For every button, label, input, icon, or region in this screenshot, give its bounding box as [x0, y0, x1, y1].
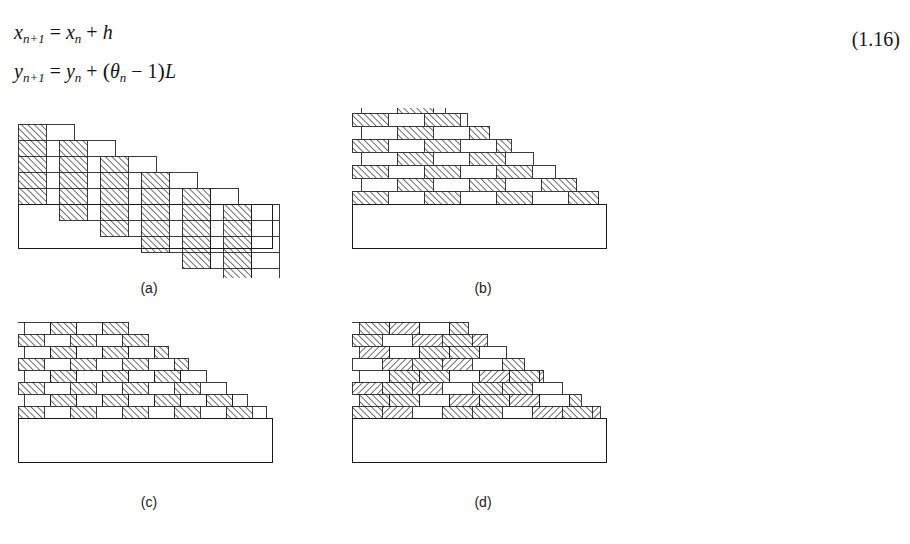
equation2-relation: = [50, 60, 61, 82]
equation-step-term: h [103, 21, 113, 43]
figure-panel-b: (b) [338, 108, 668, 313]
equation-lhs-subscript: n+1 [23, 31, 45, 46]
equation2-rhs-subscript: n [75, 70, 82, 85]
figure-d-drawing [338, 322, 638, 492]
figure-panel-c: (c) [4, 322, 334, 537]
figure-a-drawing [4, 108, 304, 278]
equation-rhs-subscript: n [75, 31, 82, 46]
figure-grid: (a) (b) (c) (d) [0, 100, 910, 544]
equation2-theta: θ [110, 60, 120, 82]
figure-b-drawing [338, 108, 638, 278]
equation-lhs-variable: x [14, 21, 23, 43]
equation-relation: = [50, 21, 61, 43]
equation2-operator: + [86, 60, 97, 82]
equation2-open-paren: ( [103, 58, 110, 83]
equation-rhs-variable: x [66, 21, 75, 43]
equation-line-1: xn+1 = xn + h [14, 22, 113, 45]
figure-a-label: (a) [4, 280, 294, 296]
equation-line-2: yn+1 = yn + (θn − 1)L [14, 60, 176, 84]
equation2-length: L [165, 60, 176, 82]
equation2-theta-subscript: n [120, 70, 127, 85]
equation2-one: 1 [148, 60, 158, 82]
figure-panel-d: (d) [338, 322, 668, 537]
equation2-rhs-variable: y [66, 60, 75, 82]
equation-number: (1.16) [852, 28, 900, 51]
equation-block: xn+1 = xn + h yn+1 = yn + (θn − 1)L [14, 16, 894, 94]
equation2-lhs-variable: y [14, 60, 23, 82]
figure-d-label: (d) [338, 494, 628, 510]
figure-c-label: (c) [4, 494, 294, 510]
equation2-minus: − [131, 60, 142, 82]
figure-b-label: (b) [338, 280, 628, 296]
figure-panel-a: (a) [4, 108, 334, 313]
figure-c-drawing [4, 322, 304, 492]
equation2-lhs-subscript: n+1 [23, 70, 45, 85]
equation-operator: + [86, 21, 97, 43]
equation2-close-paren: ) [158, 58, 165, 83]
